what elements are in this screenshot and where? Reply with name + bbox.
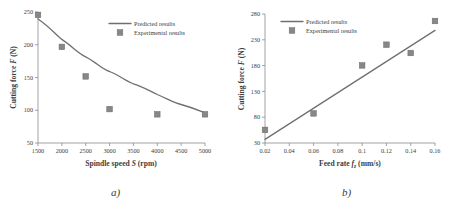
legend-marker-label-b: Experimental results: [306, 27, 358, 34]
x-tick-label: 0.04: [284, 147, 295, 154]
x-axis-title-b: Feed rate fz (mm/s): [319, 159, 381, 169]
figure-container: 50 100 150 200 250 1500 2000 2500: [0, 0, 462, 202]
y-tick-label: 230: [251, 36, 260, 43]
y-axis-title-pre: Cutting force: [237, 65, 246, 110]
legend-line-label-b: Predicted results: [306, 18, 348, 25]
x-tick-label: 2500: [80, 147, 92, 154]
experimental-markers-b: [262, 18, 438, 133]
y-axis-title-b: Cutting force F (N): [237, 47, 246, 110]
y-tick-label: 200: [24, 41, 33, 48]
legend-marker-swatch-a: [117, 30, 123, 36]
y-tick-label: 180: [251, 62, 260, 69]
y-axis-title-post: (N): [9, 46, 18, 59]
legend-marker-swatch-b: [289, 28, 295, 34]
chart-panel-a: 50 100 150 200 250 1500 2000 2500: [0, 0, 231, 202]
legend-b: Predicted results Experimental results: [281, 18, 358, 34]
y-axis-tick-labels-a: 50 100 150 200 250: [24, 8, 33, 146]
y-tick-label: 80: [254, 113, 260, 120]
y-axis-title-a: Cutting force F (N): [9, 46, 18, 109]
x-tick-label: 0.02: [260, 147, 271, 154]
x-tick-label: 0.1: [358, 147, 366, 154]
x-tick-label: 0.06: [308, 147, 319, 154]
x-axis-title-post: (rpm): [136, 159, 157, 168]
x-axis-title-pre: Feed rate: [319, 159, 351, 168]
y-axis-tick-labels-b: 30 80 130 180 230 280: [251, 10, 260, 146]
x-tick-label: 1500: [32, 147, 44, 154]
predicted-line-b: [265, 30, 435, 139]
y-tick-label: 280: [251, 10, 260, 17]
x-tick-label: 5000: [199, 147, 211, 154]
x-tick-label: 4000: [151, 147, 163, 154]
x-tick-label: 3000: [103, 147, 115, 154]
x-axis-tick-labels-b: 0.02 0.04 0.06 0.08 0.1 0.12 0.14 0.16: [260, 147, 441, 154]
x-axis-ticks-b: [265, 143, 435, 146]
legend-line-label-a: Predicted results: [134, 20, 176, 27]
chart-a-svg: 50 100 150 200 250 1500 2000 2500: [0, 0, 231, 180]
x-tick-label: 0.14: [405, 147, 416, 154]
chart-panel-b: 30 80 130 180 230 280 0.02 0.04: [231, 0, 462, 202]
x-tick-label: 3500: [127, 147, 139, 154]
x-axis-tick-labels-a: 1500 2000 2500 3000 3500 4000 4500 5000: [32, 147, 211, 154]
y-tick-label: 130: [251, 88, 260, 95]
y-axis-title-pre: Cutting force: [9, 64, 18, 109]
x-axis-ticks-a: [38, 143, 205, 146]
y-tick-label: 150: [24, 74, 33, 81]
panel-caption-a: a): [0, 186, 231, 198]
x-axis-title-a: Spindle speed S (rpm): [85, 159, 157, 168]
x-tick-label: 4500: [175, 147, 187, 154]
chart-b-svg: 30 80 130 180 230 280 0.02 0.04: [231, 0, 462, 180]
x-tick-label: 0.08: [332, 147, 343, 154]
y-axis-ticks-a: [35, 12, 38, 143]
x-axis-title-post: (mm/s): [356, 159, 381, 168]
y-tick-label: 30: [254, 139, 260, 146]
y-axis-ticks-b: [262, 14, 265, 143]
x-tick-label: 0.16: [430, 147, 441, 154]
x-axis-title-pre: Spindle speed: [85, 159, 131, 168]
y-tick-label: 250: [24, 8, 33, 15]
legend-marker-label-a: Experimental results: [134, 29, 186, 36]
x-tick-label: 0.12: [381, 147, 392, 154]
panel-caption-b: b): [231, 186, 462, 198]
x-tick-label: 2000: [56, 147, 68, 154]
y-tick-label: 100: [24, 106, 33, 113]
y-axis-title-post: (N): [237, 47, 246, 60]
y-tick-label: 50: [27, 139, 33, 146]
legend-a: Predicted results Experimental results: [109, 20, 186, 36]
